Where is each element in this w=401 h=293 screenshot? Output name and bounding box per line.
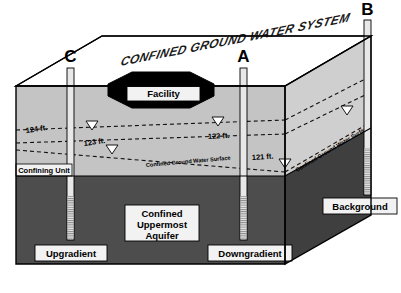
figure-canvas: CONFINED GROUND WATER SYSTEM — [0, 0, 401, 293]
well-a-letter: A — [237, 47, 249, 66]
facility-label: Facility — [147, 88, 180, 99]
contour-label-121-text: 121 ft. — [252, 152, 274, 162]
confining-unit-label: Confining Unit — [18, 166, 70, 175]
aquifer-label-group: Confined Uppermost Aquifer — [125, 205, 199, 241]
well-b-screen — [365, 148, 371, 194]
aquifer-label-line3: Aquifer — [145, 230, 179, 241]
block-diagram: CONFINED GROUND WATER SYSTEM — [0, 0, 401, 293]
well-c-label: Upgradient — [46, 248, 97, 259]
contour-label-121: 121 ft. — [252, 152, 274, 162]
well-b-label: Background — [332, 201, 388, 212]
contour-label-122-text: 122 ft. — [208, 131, 230, 141]
aquifer-label-line2: Uppermost — [137, 219, 188, 230]
well-b-letter: B — [361, 0, 373, 19]
aquifer-label-line1: Confined — [141, 208, 182, 219]
well-a-label: Downgradient — [218, 248, 282, 259]
well-a-screen — [241, 196, 247, 239]
contour-label-122: 122 ft. — [208, 131, 230, 141]
well-c-screen — [68, 196, 74, 239]
confining-unit-label-group: Confining Unit — [16, 164, 72, 176]
facility: Facility — [108, 72, 214, 108]
